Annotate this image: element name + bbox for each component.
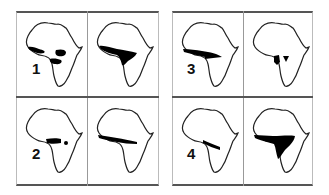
left-divider	[87, 11, 88, 186]
shaded-region	[254, 135, 295, 159]
right-divider	[243, 11, 244, 186]
shaded-region	[183, 49, 222, 59]
africa-map-1a	[22, 18, 84, 90]
africa-map-1b	[93, 18, 155, 90]
shaded-region	[283, 56, 289, 62]
africa-map-3a	[178, 18, 240, 90]
africa-map-4b	[249, 104, 311, 176]
africa-map-3b	[249, 18, 311, 90]
left-row-divider	[16, 96, 159, 98]
shaded-region	[28, 47, 45, 54]
right-row-divider	[172, 96, 313, 98]
africa-map-4a	[178, 104, 240, 176]
shaded-region	[99, 46, 137, 65]
shaded-region	[55, 49, 66, 56]
africa-map-2b	[93, 104, 155, 176]
africa-map-2a	[22, 104, 84, 176]
shaded-region	[46, 138, 61, 144]
shaded-region	[64, 141, 68, 145]
